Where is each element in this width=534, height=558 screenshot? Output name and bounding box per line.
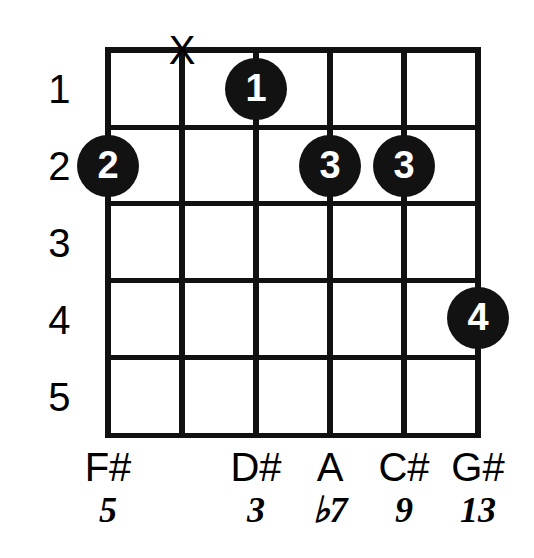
finger-dot-3a[interactable]: 3 <box>299 135 361 197</box>
note-name-string-1: F# <box>60 447 156 487</box>
mute-string-x-icon: X <box>165 33 199 67</box>
fret-number-5: 5 <box>36 377 82 417</box>
finger-dot-2[interactable]: 2 <box>77 135 139 197</box>
string-line-5 <box>401 47 407 438</box>
fret-line-1 <box>106 125 480 130</box>
string-line-4 <box>327 47 333 438</box>
fret-number-1: 1 <box>36 69 82 109</box>
string-line-6 <box>475 47 481 438</box>
finger-dot-3b[interactable]: 3 <box>373 135 435 197</box>
fret-line-3 <box>106 278 480 283</box>
nut-line <box>106 47 480 53</box>
interval-string-1: 5 <box>60 492 156 528</box>
interval-string-6: 13 <box>430 492 526 528</box>
mute-string-x-label: X <box>165 33 199 67</box>
fret-number-4: 4 <box>36 300 82 340</box>
note-name-string-6: G# <box>430 447 526 487</box>
fret-line-5 <box>106 433 480 438</box>
finger-dot-4[interactable]: 4 <box>447 287 509 349</box>
finger-dot-1[interactable]: 1 <box>225 58 287 120</box>
fret-number-2: 2 <box>36 146 82 186</box>
fret-number-3: 3 <box>36 223 82 263</box>
string-line-2 <box>179 47 185 438</box>
string-line-1 <box>105 47 111 438</box>
chord-diagram: 1 2 3 4 5 X 1 2 3 3 4 F# D# A C# G# 5 3 … <box>0 0 534 558</box>
fret-line-2 <box>106 201 480 206</box>
fret-line-4 <box>106 355 480 360</box>
